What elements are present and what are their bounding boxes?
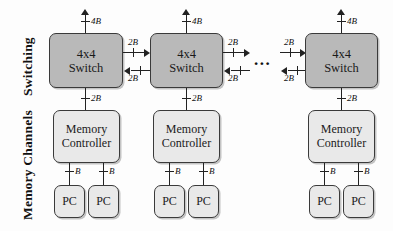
side-label-switching: Switching: [20, 37, 36, 96]
pc-link-label-col1-pc2: B: [109, 166, 115, 176]
uplink-tick-col3: [337, 21, 346, 22]
switch-block-col1[interactable]: 4x4 Switch: [49, 33, 123, 88]
pc-tick-col2-pc2: [199, 171, 208, 172]
pc-tick-col3-pc1: [320, 171, 329, 172]
pc-tick-col2-pc1: [165, 171, 174, 172]
uplink-arrowhead-col3: [337, 9, 345, 15]
pc-link-label-col3-pc2: B: [364, 166, 370, 176]
memory-controller-block-col3[interactable]: Memory Controller: [308, 110, 375, 163]
memory-controller-label-line2: Controller: [62, 137, 111, 150]
pc-wire-col3-pc2: [358, 163, 359, 185]
interswitch-label-right-col1: 2B: [128, 37, 138, 47]
uplink-label-col3: 4B: [347, 16, 357, 26]
pc-wire-col3-pc1: [324, 163, 325, 185]
pc-block-col3-pc2[interactable]: PC: [343, 185, 374, 218]
uplink-wire-col1: [85, 14, 86, 34]
interswitch-tick-right-col1: [133, 48, 134, 57]
switch-label-line1: 4x4: [77, 47, 96, 61]
downlink-tick-col1: [81, 98, 90, 99]
pc-label: PC: [351, 195, 366, 208]
interswitch-label-right-col2: 2B: [228, 37, 238, 47]
pc-block-col3-pc1[interactable]: PC: [309, 185, 340, 218]
downlink-tick-col2: [182, 98, 191, 99]
interswitch-label-right-col3: 2B: [284, 37, 294, 47]
uplink-arrowhead-col2: [182, 9, 190, 15]
pc-link-label-col2-pc2: B: [209, 166, 215, 176]
interswitch-label-left-col2: 2B: [228, 73, 238, 83]
switch-label-line1: 4x4: [332, 47, 351, 61]
memory-controller-block-col1[interactable]: Memory Controller: [53, 110, 120, 163]
downlink-tick-col3: [337, 98, 346, 99]
memory-controller-label-line1: Memory: [166, 123, 207, 136]
memory-controller-block-col2[interactable]: Memory Controller: [153, 110, 220, 163]
pc-label: PC: [162, 195, 177, 208]
uplink-label-col2: 4B: [192, 16, 202, 26]
pc-label: PC: [196, 195, 211, 208]
uplink-wire-col3: [341, 14, 342, 34]
downlink-label-col3: 2B: [347, 93, 357, 103]
downlink-label-col2: 2B: [192, 93, 202, 103]
switch-label-line2: Switch: [69, 61, 104, 75]
pc-tick-col3-pc2: [354, 171, 363, 172]
switch-block-col3[interactable]: 4x4 Switch: [305, 33, 378, 88]
pc-block-col1-pc2[interactable]: PC: [88, 185, 119, 218]
interswitch-tick-left-col3: [297, 66, 298, 75]
interswitch-label-left-col1: 2B: [128, 73, 138, 83]
interswitch-wire-right-col1: [123, 52, 145, 53]
interswitch-tick-left-col2: [240, 66, 241, 75]
downlink-wire-col2: [186, 88, 187, 110]
uplink-tick-col2: [182, 21, 191, 22]
uplink-arrowhead-col1: [81, 9, 89, 15]
uplink-wire-col2: [186, 14, 187, 34]
interswitch-tick-right-col2: [233, 48, 234, 57]
pc-block-col2-pc2[interactable]: PC: [188, 185, 219, 218]
pc-tick-col1-pc2: [99, 171, 108, 172]
interswitch-tick-right-col3: [290, 48, 291, 57]
pc-block-col2-pc1[interactable]: PC: [154, 185, 185, 218]
uplink-tick-col1: [81, 21, 90, 22]
memory-controller-label-line2: Controller: [162, 137, 211, 150]
downlink-wire-col1: [85, 88, 86, 110]
interswitch-wire-right-col2: [223, 52, 245, 53]
pc-link-label-col2-pc1: B: [175, 166, 181, 176]
memory-controller-label-line1: Memory: [321, 123, 362, 136]
diagram-canvas: Switching Memory Channels 4B 4x4 Switch …: [0, 0, 393, 231]
pc-link-label-col1-pc1: B: [75, 166, 81, 176]
pc-block-col1-pc1[interactable]: PC: [54, 185, 85, 218]
pc-wire-col2-pc2: [203, 163, 204, 185]
switch-label-line2: Switch: [324, 61, 359, 75]
interswitch-label-left-col3: 2B: [284, 73, 294, 83]
interswitch-tick-left-col1: [140, 66, 141, 75]
pc-label: PC: [62, 195, 77, 208]
memory-controller-label-line2: Controller: [317, 137, 366, 150]
pc-wire-col1-pc2: [103, 163, 104, 185]
pc-tick-col1-pc1: [65, 171, 74, 172]
memory-controller-label-line1: Memory: [66, 123, 107, 136]
switch-block-col2[interactable]: 4x4 Switch: [150, 33, 223, 88]
switch-label-line1: 4x4: [177, 47, 196, 61]
pc-label: PC: [317, 195, 332, 208]
switch-label-line2: Switch: [169, 61, 204, 75]
pc-link-label-col3-pc1: B: [330, 166, 336, 176]
ellipsis-separator: ...: [254, 50, 271, 70]
pc-wire-col1-pc1: [69, 163, 70, 185]
downlink-label-col1: 2B: [91, 93, 101, 103]
pc-label: PC: [96, 195, 111, 208]
side-label-memory-channels: Memory Channels: [20, 110, 36, 220]
interswitch-arrowhead-right-col2: [244, 49, 250, 57]
pc-wire-col2-pc1: [169, 163, 170, 185]
downlink-wire-col3: [341, 88, 342, 110]
uplink-label-col1: 4B: [91, 16, 101, 26]
